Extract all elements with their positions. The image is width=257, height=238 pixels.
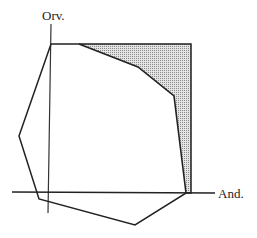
- x-axis-label: And.: [218, 186, 244, 201]
- diagram-canvas: Orv. And.: [0, 0, 257, 238]
- x-axis: [12, 192, 215, 193]
- y-axis-label: Orv.: [42, 8, 65, 23]
